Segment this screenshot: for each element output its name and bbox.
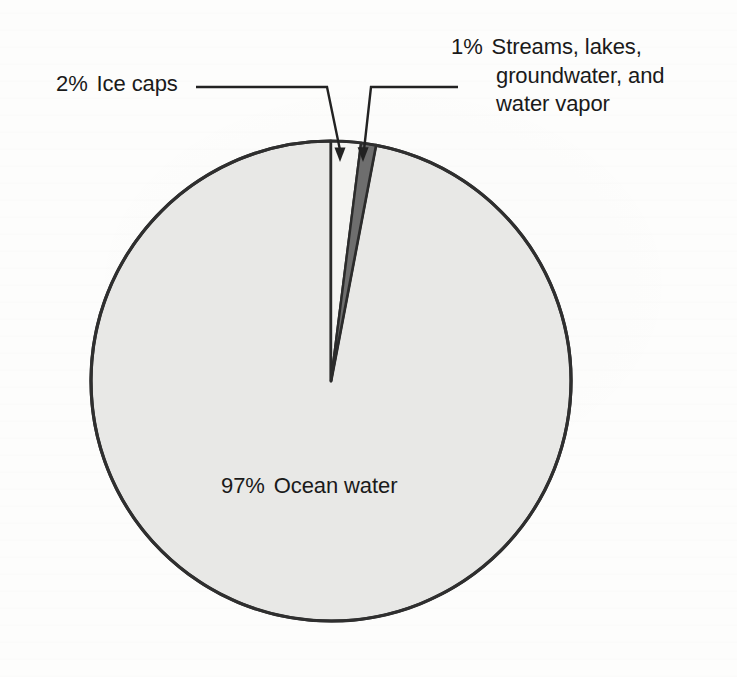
leader-line-streams	[364, 87, 458, 150]
slice-percent-ice-caps: 2%	[56, 71, 88, 96]
slice-percent-ocean: 97%	[221, 473, 265, 498]
slice-label-streams-row-1: 1%Streams, lakes,	[451, 33, 664, 62]
slice-name-ocean: Ocean water	[274, 473, 398, 498]
slice-label-ice-caps: 2%Ice caps	[56, 70, 178, 99]
slice-name-streams-line1: Streams, lakes,	[492, 34, 642, 59]
slice-name-streams-line3: water vapor	[496, 90, 664, 119]
pie-chart-figure: 2%Ice caps 1%Streams, lakes, groundwater…	[0, 0, 737, 677]
slice-name-streams-line2: groundwater, and	[496, 62, 664, 91]
slice-percent-streams: 1%	[451, 34, 483, 59]
slice-name-ice-caps: Ice caps	[97, 71, 178, 96]
slice-label-ocean-water: 97%Ocean water	[221, 472, 397, 501]
slice-label-streams-groundwater: 1%Streams, lakes, groundwater, and water…	[451, 33, 664, 119]
